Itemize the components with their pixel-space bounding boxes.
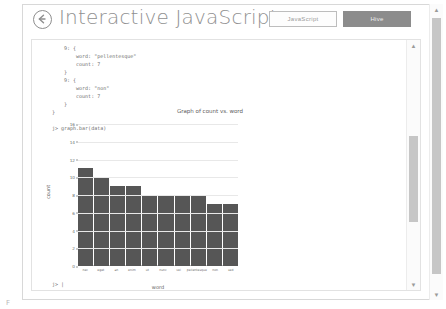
inner-scroll-thumb[interactable] [409,136,418,222]
tab-hive[interactable]: Hive [343,11,411,27]
bar [126,186,141,266]
grid-line [78,248,238,249]
x-axis-tick: eget [94,268,109,272]
grid-line [78,160,238,161]
back-button[interactable] [33,10,52,29]
y-axis-tick: 2 [72,246,75,251]
y-axis-tick: 16 [70,122,75,127]
app-header: Interactive JavaScript JavaScript Hive [23,5,429,37]
inner-scroll-down-arrow[interactable]: ▼ [407,279,420,290]
grid-line [78,177,238,178]
outer-scroll-down-arrow[interactable]: ▼ [430,289,443,300]
app-window: Interactive JavaScript JavaScript Hive 9… [22,4,430,300]
bar-chart: Graph of count vs. word count 1614121086… [40,108,380,290]
x-axis-tick: nunc [156,268,171,272]
outer-scroll-thumb[interactable] [432,18,441,274]
grid-line [78,213,238,214]
repl-console: 9: { word: "pellentesque" count: 7 } 9: … [31,39,421,291]
plot-area: 1614121086420 [78,124,238,266]
grid-line [78,195,238,196]
console-scroll-area[interactable]: 9: { word: "pellentesque" count: 7 } 9: … [32,40,406,290]
back-arrow-icon [36,13,48,25]
x-axis-tick-labels: necegetanenimutnuncvelpellentesquenonsed [78,268,238,272]
outer-scrollbar[interactable]: ▲ ▼ [429,4,443,300]
chart-title: Graph of count vs. word [40,108,380,114]
outer-scroll-up-arrow[interactable]: ▲ [430,4,443,15]
y-axis-tick: 8 [72,193,75,198]
x-axis-tick: an [109,268,124,272]
y-axis-tick: 12 [70,157,75,162]
y-axis-tick: 6 [72,210,75,215]
bar [78,168,93,266]
x-axis-tick: sed [223,268,238,272]
page-title: Interactive JavaScript [59,5,278,29]
bar [110,186,125,266]
grid-line [78,142,238,143]
inner-scrollbar[interactable]: ▲ ▼ [406,40,420,290]
inner-scroll-up-arrow[interactable]: ▲ [407,40,420,51]
corner-marker: F [6,299,10,307]
console-prompt-line: j> | [52,281,64,287]
y-axis-tick: 0 [72,264,75,269]
bar [94,177,109,266]
x-axis-tick: vel [171,268,186,272]
x-axis-tick: nec [78,268,93,272]
y-axis-title: count [45,185,51,199]
y-axis-tick: 4 [72,228,75,233]
x-axis-tick: ut [140,268,155,272]
grid-line [78,124,238,125]
x-axis-title: word [78,284,238,290]
y-axis-tick: 14 [70,139,75,144]
x-axis-tick: enim [125,268,140,272]
x-axis-tick: non [208,268,223,272]
y-axis-tick: 10 [70,175,75,180]
language-toggle-group: JavaScript Hive [269,11,411,27]
tab-javascript[interactable]: JavaScript [269,11,337,27]
x-axis-tick: pellentesque [187,268,207,272]
grid-line [78,231,238,232]
